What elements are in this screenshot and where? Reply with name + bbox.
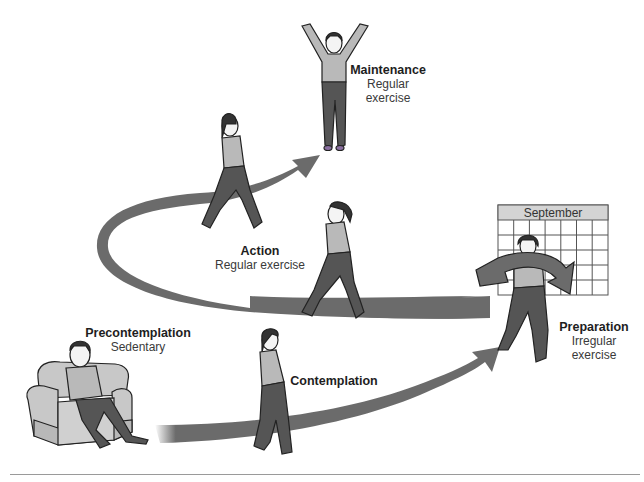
stage-desc-maintenance-1: Regular [350, 77, 426, 91]
contemplation-figure [254, 329, 292, 454]
stage-desc-action: Regular exercise [200, 258, 320, 272]
arrow-contemplation-to-preparation [155, 347, 500, 443]
arrow-action-to-maintenance [97, 155, 490, 319]
action-figure-upper [202, 114, 262, 228]
diagram-canvas: September [0, 0, 644, 482]
stage-desc-precontemplation: Sedentary [78, 340, 198, 354]
stage-title-precontemplation: Precontemplation [78, 326, 198, 340]
stages-of-change-diagram: September [0, 0, 644, 482]
stage-title-action: Action [200, 244, 320, 258]
stage-desc-maintenance-2: exercise [350, 91, 426, 105]
stage-title-contemplation: Contemplation [286, 374, 382, 388]
stage-title-preparation: Preparation [548, 320, 640, 334]
label-action: Action Regular exercise [200, 244, 320, 272]
stage-title-maintenance: Maintenance [350, 63, 426, 77]
stage-desc-preparation-1: Irregular [548, 334, 640, 348]
bottom-rule-divider [10, 474, 640, 475]
stage-desc-preparation-2: exercise [548, 348, 640, 362]
label-maintenance: Maintenance Regular exercise [350, 63, 426, 105]
label-precontemplation: Precontemplation Sedentary [78, 326, 198, 354]
label-contemplation: Contemplation [286, 374, 382, 388]
label-preparation: Preparation Irregular exercise [548, 320, 640, 362]
precontemplation-figure [27, 341, 148, 448]
calendar-month: September [524, 206, 583, 220]
